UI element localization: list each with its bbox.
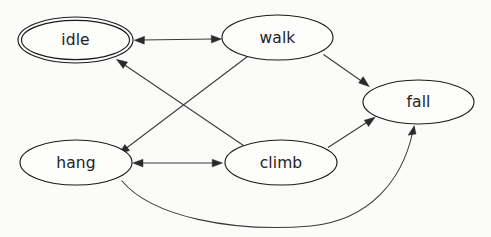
edge-walk-fall[interactable] [324, 55, 370, 87]
node-idle[interactable]: idle [18, 17, 133, 63]
edge-idle-walk-line [141, 39, 214, 40]
edge-idle-walk[interactable] [134, 35, 221, 44]
edge-climb-fall[interactable] [328, 117, 375, 148]
arrowhead-into-hang-from-climb [133, 159, 143, 167]
edge-hang-climb[interactable] [133, 159, 223, 167]
node-walk[interactable]: walk [222, 15, 333, 60]
arrowhead-into-fall-from-walk [359, 77, 370, 87]
edge-walk-hang[interactable] [119, 57, 248, 155]
node-fall[interactable]: fall [363, 80, 474, 124]
arrowhead-into-idle-from-walk [134, 36, 144, 44]
node-climb-label: climb [260, 154, 303, 172]
node-idle-label: idle [61, 31, 89, 49]
edge-layer [116, 35, 416, 227]
edge-climb-fall-line [328, 121, 369, 148]
arrowhead-into-idle-from-climb [116, 59, 127, 68]
edge-climb-idle[interactable] [116, 59, 243, 145]
arrowhead-into-walk-from-idle [211, 35, 221, 43]
arrowhead-into-fall-from-hang [408, 126, 416, 136]
node-hang[interactable]: hang [20, 140, 132, 185]
edge-walk-fall-line [324, 55, 364, 83]
state-diagram: idle walk fall hang climb [0, 0, 491, 237]
arrowhead-into-fall-from-climb [364, 117, 375, 127]
node-fall-label: fall [407, 93, 431, 111]
node-climb[interactable]: climb [225, 140, 337, 185]
arrowhead-into-climb-from-hang [212, 159, 222, 167]
edge-climb-idle-line [123, 64, 244, 146]
node-layer: idle walk fall hang climb [18, 15, 474, 185]
node-hang-label: hang [56, 154, 95, 172]
node-walk-label: walk [260, 29, 296, 47]
state-diagram-canvas: idle walk fall hang climb [0, 0, 491, 237]
